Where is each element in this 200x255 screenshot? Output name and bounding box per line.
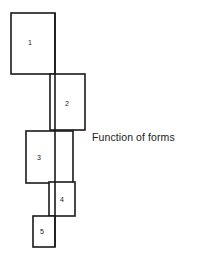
box-3 [26, 131, 73, 183]
diagram-caption: Function of forms [92, 131, 175, 143]
box-4-number: 4 [60, 196, 64, 203]
box-5 [33, 216, 55, 247]
box-2-number: 2 [65, 100, 69, 107]
box-1 [11, 13, 55, 74]
diagram-canvas: 1 2 3 4 5 Function of forms [0, 0, 200, 255]
box-1-number: 1 [28, 39, 32, 46]
box-5-number: 5 [40, 228, 44, 235]
box-3-number: 3 [37, 154, 41, 161]
staircase-boxes-diagram: 1 2 3 4 5 [0, 0, 200, 255]
